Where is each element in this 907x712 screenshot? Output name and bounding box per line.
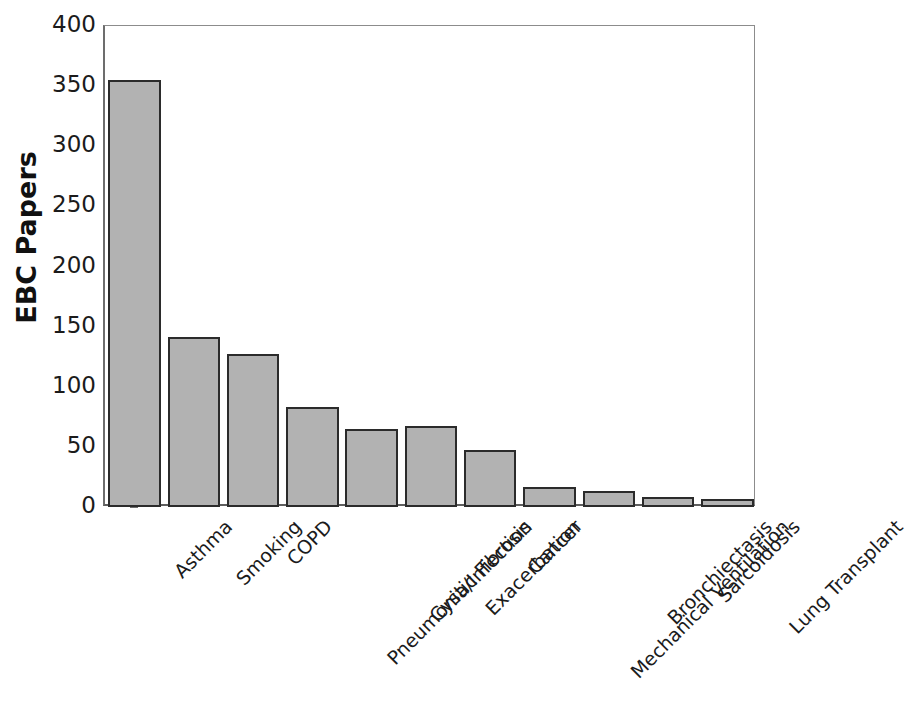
bar (227, 354, 279, 507)
bar (464, 450, 516, 507)
bar (345, 429, 397, 507)
y-tick-label: 400 (42, 13, 96, 36)
y-tick-label: 200 (42, 254, 96, 277)
x-axis-labels: AsthmaSmokingCOPDPneumonia/InfectionCyst… (103, 506, 766, 712)
bars-container (105, 26, 757, 507)
y-tick-label: 250 (42, 193, 96, 216)
bar (523, 487, 575, 507)
bar (168, 337, 220, 507)
bar (286, 407, 338, 507)
y-tick-label: 350 (42, 73, 96, 96)
bar (405, 426, 457, 507)
bar (583, 491, 635, 507)
bar (108, 80, 160, 507)
y-tick-label: 50 (42, 434, 96, 457)
y-tick-label: 300 (42, 133, 96, 156)
plot-area (103, 25, 755, 506)
x-tick-label: Lung Transplant (786, 516, 907, 638)
y-tick-label: 100 (42, 374, 96, 397)
y-tick-label: 0 (42, 494, 96, 517)
y-tick-label: 150 (42, 314, 96, 337)
x-tick-label: Asthma (170, 516, 236, 582)
x-tick-label: Cancer (524, 516, 586, 578)
y-axis-ticks: 050100150200250300350400 (34, 25, 96, 506)
